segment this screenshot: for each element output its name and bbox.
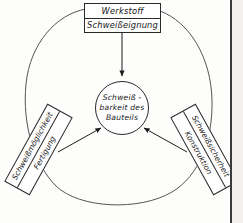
- node-werkstoff: Werkstoff Schweißeignung: [84, 3, 161, 33]
- node-center-weldability: Schweiß - barkeit des Bauteils: [95, 81, 149, 135]
- page-margin-area: [232, 0, 243, 223]
- center-line-3: Bauteils: [106, 113, 138, 123]
- page-edge-line: [230, 0, 232, 223]
- node-werkstoff-line2: Schweißeignung: [85, 18, 160, 33]
- node-werkstoff-line1: Werkstoff: [85, 4, 160, 18]
- center-line-2: barkeit des: [100, 103, 145, 113]
- diagram-canvas: Werkstoff Schweißeignung Schweißmöglichk…: [0, 0, 243, 223]
- center-line-1: Schweiß -: [103, 93, 142, 103]
